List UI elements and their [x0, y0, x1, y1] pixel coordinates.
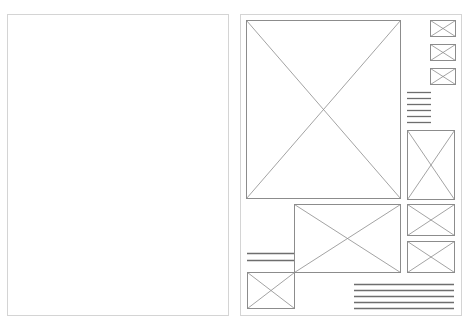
image-placeholders: [247, 21, 456, 309]
thumb-2-placeholder: [431, 45, 456, 61]
thumb-1-placeholder: [431, 21, 456, 37]
wireframe-layer: [0, 0, 468, 327]
thumb-3-placeholder: [431, 69, 456, 85]
hero-image-placeholder: [247, 21, 401, 199]
middle-image-placeholder: [295, 205, 401, 273]
bottom-text-block: [354, 285, 454, 309]
left-caption-block: [247, 254, 294, 261]
side-image-b-placeholder: [408, 242, 455, 273]
bottom-left-image-placeholder: [248, 273, 295, 309]
side-text-block: [407, 93, 431, 123]
side-tall-image-placeholder: [408, 131, 455, 200]
text-line-blocks: [247, 93, 454, 309]
side-image-a-placeholder: [408, 205, 455, 236]
